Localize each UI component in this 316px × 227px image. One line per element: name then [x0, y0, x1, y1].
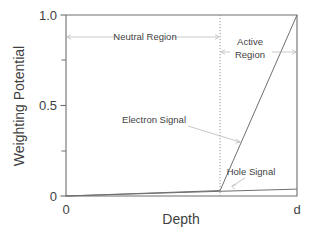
y-tick-label-1.0: 1.0	[39, 8, 57, 23]
series-hole-signal	[66, 189, 297, 196]
hole-signal-curve	[66, 189, 297, 196]
x-tick-label-0: 0	[62, 202, 69, 217]
x-axis-title: Depth	[162, 211, 199, 227]
hole-signal-leader-arrowhead	[232, 185, 237, 189]
hole-signal-annotation: Hole Signal	[227, 166, 276, 189]
electron-signal-leader-line	[188, 126, 240, 142]
hole-signal-leader-line	[232, 178, 245, 186]
electron-signal-label: Electron Signal	[122, 114, 186, 125]
neutral-region-annotation: Neutral Region	[67, 31, 219, 42]
active-region-annotation: Active Region	[221, 36, 296, 60]
electron-signal-annotation: Electron Signal	[122, 114, 240, 143]
weighting-potential-chart: 1.0 0.5 0 0 d Weighting Potential Depth …	[0, 0, 316, 227]
y-axis-tick-labels: 1.0 0.5 0	[39, 8, 57, 204]
y-axis-ticks	[61, 15, 67, 196]
chart-canvas: 1.0 0.5 0 0 d Weighting Potential Depth …	[0, 0, 316, 227]
y-axis-title: Weighting Potential	[11, 46, 27, 166]
active-region-label-line2: Region	[235, 49, 265, 60]
x-tick-label-d: d	[293, 202, 300, 217]
y-tick-label-0.5: 0.5	[39, 98, 57, 113]
neutral-region-label: Neutral Region	[113, 31, 176, 42]
y-tick-label-0: 0	[50, 189, 57, 204]
active-region-label-line1: Active	[237, 36, 263, 47]
hole-signal-label: Hole Signal	[227, 166, 276, 177]
